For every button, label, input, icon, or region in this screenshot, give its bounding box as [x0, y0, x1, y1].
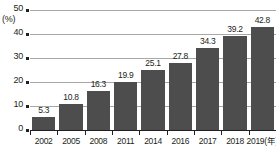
bar-slot: 16.3 [87, 0, 110, 131]
y-axis-tick-marker [26, 129, 29, 132]
x-axis-tick [249, 131, 250, 135]
bar-value-label: 19.9 [108, 71, 143, 80]
x-axis-category-label: 2019(年) [243, 137, 276, 146]
bar-value-label: 42.8 [245, 16, 276, 25]
bar-slot: 10.8 [59, 0, 82, 131]
bar [169, 63, 192, 130]
y-axis-tick-marker [26, 81, 29, 84]
bar-series: 5.310.816.319.925.127.834.339.242.8 [30, 0, 276, 131]
bar-slot: 27.8 [169, 0, 192, 131]
bar [141, 70, 164, 130]
x-axis: 200220052008201120142016201720182019(年) [30, 131, 276, 156]
y-axis-unit-label: (%) [2, 15, 15, 24]
bar-slot: 39.2 [223, 0, 246, 131]
y-axis-tick-marker [26, 33, 29, 36]
bar-slot: 34.3 [196, 0, 219, 131]
x-axis-tick [112, 131, 113, 135]
x-axis-tick [85, 131, 86, 135]
x-axis-tick [221, 131, 222, 135]
x-axis-tick [167, 131, 168, 135]
y-axis: (%) 01020304050 [0, 0, 30, 156]
y-axis-tick-label: 10 [13, 100, 23, 109]
bar [32, 117, 55, 130]
bar [196, 48, 219, 130]
bar-chart: (%) 01020304050 5.310.816.319.925.127.83… [0, 0, 276, 156]
y-axis-tick-label: 40 [13, 28, 23, 37]
y-axis-tick-marker [26, 9, 29, 12]
y-axis-tick-label: 20 [13, 76, 23, 85]
bar-value-label: 10.8 [53, 93, 88, 102]
x-axis-tick [139, 131, 140, 135]
bar-value-label: 5.3 [26, 106, 61, 115]
bar [223, 36, 246, 130]
bar-value-label: 34.3 [190, 37, 225, 46]
bar-value-label: 16.3 [81, 80, 116, 89]
y-axis-tick-label: 30 [13, 52, 23, 61]
bar [114, 82, 137, 130]
plot-area: 5.310.816.319.925.127.834.339.242.8 [30, 0, 276, 131]
x-axis-tick [30, 131, 31, 135]
y-axis-tick-label: 50 [13, 4, 23, 13]
bar-slot: 42.8 [251, 0, 274, 131]
bar-value-label: 39.2 [217, 25, 252, 34]
y-axis-tick-label: 0 [18, 124, 23, 133]
y-axis-tick-marker [26, 57, 29, 60]
bar-slot: 25.1 [141, 0, 164, 131]
bar-slot: 5.3 [32, 0, 55, 131]
bar [59, 104, 82, 130]
bar-value-label: 27.8 [163, 52, 198, 61]
x-axis-tick [194, 131, 195, 135]
bar-slot: 19.9 [114, 0, 137, 131]
bar [251, 27, 274, 130]
x-axis-tick [57, 131, 58, 135]
bar [87, 91, 110, 130]
